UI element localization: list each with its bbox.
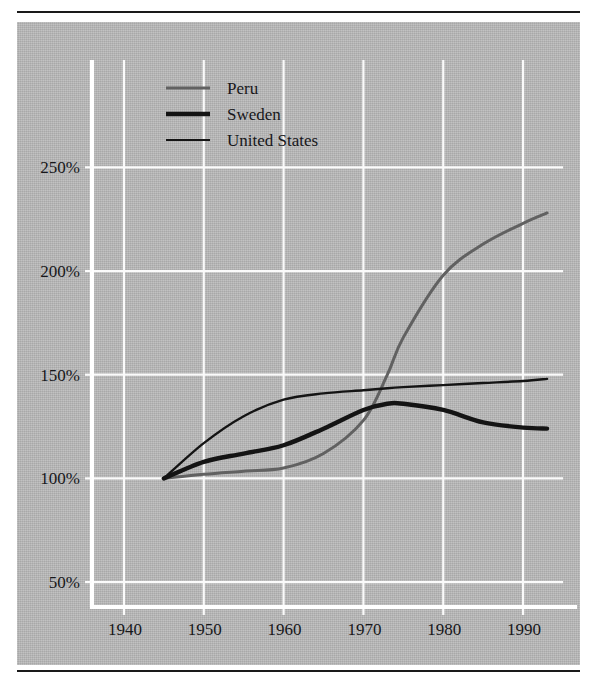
chart-legend: PeruSwedenUnited States [166,79,318,150]
x-tick-label: 1990 [507,620,541,639]
y-tick-label: 50% [49,573,80,592]
y-tick-label: 250% [40,158,80,177]
data-series-group [164,213,547,478]
x-tick-label: 1980 [427,620,461,639]
x-tick-label: 1940 [108,620,142,639]
legend-label-united-states: United States [227,131,318,150]
x-tick-label: 1960 [268,620,302,639]
axis-lines [90,60,577,607]
vertical-gridlines [124,60,523,615]
x-tick-label: 1950 [188,620,222,639]
horizontal-gridlines [92,167,563,582]
legend-label-peru: Peru [227,79,259,98]
y-axis-tick-labels: 50%100%150%200%250% [40,158,92,592]
y-tick-label: 200% [40,262,80,281]
line-chart: 50%100%150%200%250% 19401950196019701980… [0,0,590,680]
y-tick-label: 150% [40,366,80,385]
series-line-sweden [164,403,547,478]
series-line-peru [164,213,547,478]
x-axis-tick-labels: 194019501960197019801990 [108,620,541,639]
figure-container: 50%100%150%200%250% 19401950196019701980… [0,0,590,680]
y-tick-label: 100% [40,469,80,488]
bottom-rule [17,670,580,672]
x-tick-label: 1970 [347,620,381,639]
legend-label-sweden: Sweden [227,105,281,124]
